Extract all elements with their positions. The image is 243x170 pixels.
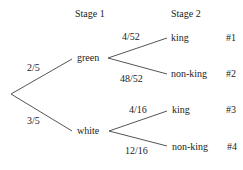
node-green: green: [77, 53, 99, 63]
stage2-header: Stage 2: [171, 9, 201, 19]
outcome-4: #4: [227, 142, 237, 152]
prob-white-nonking: 12/16: [125, 146, 148, 156]
node-green-nonking: non-king: [171, 69, 207, 79]
prob-white: 3/5: [27, 116, 40, 126]
outcome-1: #1: [226, 33, 236, 43]
branch-white-nonking: [109, 131, 167, 146]
branch-green-nonking: [108, 58, 167, 74]
outcome-3: #3: [226, 105, 236, 115]
node-white-nonking: non-king: [172, 142, 208, 152]
prob-green-king: 4/52: [122, 32, 140, 42]
outcome-2: #2: [226, 69, 236, 79]
node-white-king: king: [172, 105, 190, 115]
node-white: white: [77, 126, 99, 136]
node-green-king: king: [171, 33, 189, 43]
prob-green-nonking: 48/52: [120, 74, 143, 84]
prob-white-king: 4/16: [129, 105, 147, 115]
branch-root-white: [11, 94, 72, 131]
stage1-header: Stage 1: [75, 9, 105, 19]
prob-green: 2/5: [27, 63, 40, 73]
branch-root-green: [11, 59, 72, 94]
